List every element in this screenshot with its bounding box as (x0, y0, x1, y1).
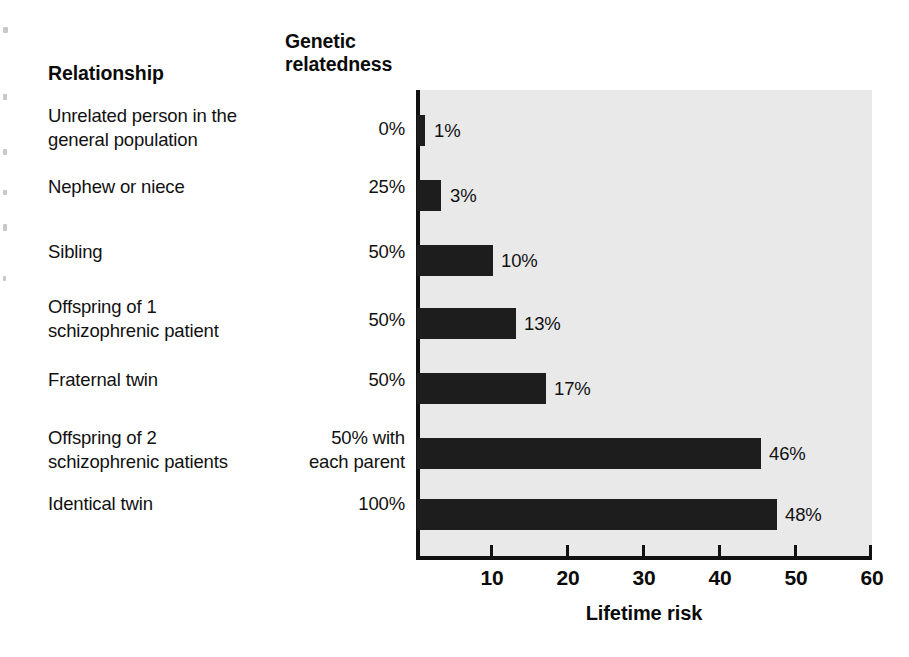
row-genetic-relatedness: 50% with each parent (250, 426, 405, 474)
schizophrenia-risk-bar-chart: Relationship Genetic relatedness Unrelat… (0, 0, 909, 657)
bar-value-label: 3% (450, 180, 476, 211)
x-axis-title: Lifetime risk (416, 602, 872, 625)
bar (417, 438, 761, 469)
x-axis-tick (794, 545, 797, 557)
x-axis-tick (869, 545, 872, 557)
column-header-relationship: Relationship (48, 62, 164, 85)
table-row: Identical twin 100% (0, 492, 410, 556)
row-label: Fraternal twin (48, 368, 280, 392)
row-genetic-relatedness: 100% (250, 492, 405, 516)
x-axis-tick (642, 545, 645, 557)
row-label: Offspring of 1 schizophrenic patient (48, 295, 280, 343)
bar (417, 373, 546, 404)
bar-value-label: 13% (524, 308, 561, 339)
row-label: Sibling (48, 240, 280, 264)
bar-value-label: 17% (554, 373, 591, 404)
x-axis-tick-label: 50 (771, 566, 821, 590)
bar (417, 499, 777, 530)
table-row: Fraternal twin 50% (0, 368, 410, 432)
bar-value-label: 46% (769, 438, 806, 469)
row-label: Identical twin (48, 492, 280, 516)
x-axis-tick-label: 30 (619, 566, 669, 590)
column-header-genetic-relatedness: Genetic relatedness (285, 30, 405, 76)
x-axis-tick (718, 545, 721, 557)
row-label: Nephew or niece (48, 175, 280, 199)
row-genetic-relatedness: 50% (250, 308, 405, 332)
row-label: Unrelated person in the general populati… (48, 104, 280, 152)
table-row: Nephew or niece 25% (0, 175, 410, 239)
row-label: Offspring of 2 schizophrenic patients (48, 426, 280, 474)
bar-value-label: 48% (785, 499, 822, 530)
x-axis-tick-label: 10 (467, 566, 517, 590)
table-row: Offspring of 1 schizophrenic patient 50% (0, 295, 410, 359)
bar-value-label: 1% (434, 115, 460, 146)
bar (417, 115, 425, 146)
bar (417, 180, 441, 211)
table-row: Offspring of 2 schizophrenic patients 50… (0, 426, 410, 490)
x-axis-tick-label: 20 (543, 566, 593, 590)
bar (417, 308, 516, 339)
row-genetic-relatedness: 50% (250, 368, 405, 392)
bar (417, 245, 493, 276)
x-axis-tick (490, 545, 493, 557)
row-genetic-relatedness: 50% (250, 240, 405, 264)
x-axis-tick-label: 40 (695, 566, 745, 590)
scan-speck (3, 27, 8, 33)
bar-value-label: 10% (501, 245, 538, 276)
x-axis-tick-label: 60 (847, 566, 897, 590)
row-genetic-relatedness: 25% (250, 175, 405, 199)
table-row: Unrelated person in the general populati… (0, 104, 410, 168)
scan-speck (3, 94, 7, 100)
x-axis-tick (566, 545, 569, 557)
row-genetic-relatedness: 0% (250, 117, 405, 141)
